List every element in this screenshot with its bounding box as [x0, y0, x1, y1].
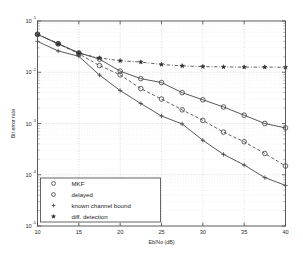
x-tick-label: 15 [76, 229, 82, 235]
legend-label-diff-detection: diff. detection [72, 213, 108, 220]
legend-label-delayed: delayed [72, 191, 93, 198]
x-tick-label: 25 [158, 229, 164, 235]
legend-label-known-channel-bound: known channel bound [72, 202, 131, 209]
y-tick-label: 10 [26, 18, 32, 24]
y-tick-exponent: -1 [33, 15, 36, 20]
ber-vs-ebno-chart: 10-110-210-310-410-510152025303540 Eb/No… [0, 0, 303, 254]
y-tick-label: 10 [26, 121, 32, 127]
legend-label-mkf: MKF [72, 180, 85, 187]
x-tick-label: 35 [241, 229, 247, 235]
y-tick-exponent: -5 [33, 220, 36, 225]
x-tick-label: 30 [200, 229, 206, 235]
y-tick-exponent: -2 [33, 67, 36, 72]
x-axis-label: Eb/No (dB) [148, 239, 174, 245]
y-tick-label: 10 [26, 69, 32, 75]
y-tick-exponent: -3 [33, 118, 36, 123]
figure-container: 10-110-210-310-410-510152025303540 Eb/No… [0, 0, 303, 254]
y-axis-label: Bit error rate [10, 109, 16, 138]
x-tick-label: 10 [34, 229, 40, 235]
x-tick-label: 40 [282, 229, 288, 235]
y-tick-label: 10 [26, 223, 32, 229]
y-tick-label: 10 [26, 172, 32, 178]
x-tick-label: 20 [117, 229, 123, 235]
chart-legend: MKFdelayedknown channel bounddiff. detec… [41, 178, 161, 222]
